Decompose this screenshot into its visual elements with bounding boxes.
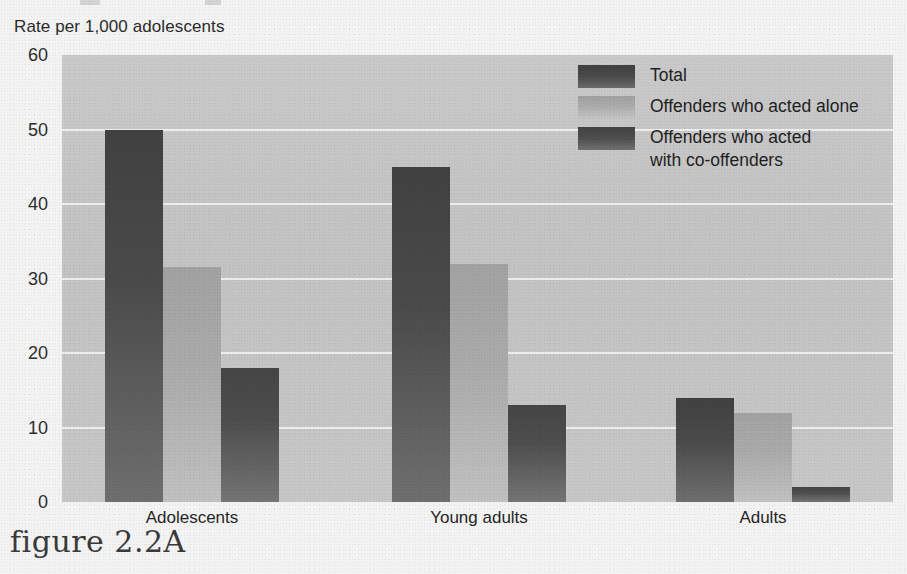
bar-co-1 xyxy=(508,405,566,502)
legend-item-alone: Offenders who acted alone xyxy=(578,95,898,119)
cropped-title-artifact xyxy=(80,0,100,5)
figure-container: Rate per 1,000 adolescents 0102030405060… xyxy=(0,0,907,574)
legend-swatch-total xyxy=(578,65,635,88)
bar-total-2 xyxy=(676,398,734,502)
x-axis-label-2: Adults xyxy=(739,508,786,528)
legend-label-alone: Offenders who acted alone xyxy=(650,95,898,118)
y-axis-tick-20: 20 xyxy=(28,343,48,364)
y-axis-tick-40: 40 xyxy=(28,194,48,215)
cropped-title-artifact xyxy=(205,0,221,5)
y-axis-tick-0: 0 xyxy=(38,492,48,513)
bar-total-1 xyxy=(392,167,450,502)
y-axis-tick-60: 60 xyxy=(28,45,48,66)
x-axis-label-1: Young adults xyxy=(430,508,528,528)
legend-item-total: Total xyxy=(578,64,898,88)
y-axis-tick-labels: 0102030405060 xyxy=(0,55,55,502)
y-axis-tick-30: 30 xyxy=(28,268,48,289)
bar-alone-1 xyxy=(450,264,508,502)
y-axis-tick-10: 10 xyxy=(28,417,48,438)
y-axis-title: Rate per 1,000 adolescents xyxy=(14,17,225,37)
y-axis-tick-50: 50 xyxy=(28,119,48,140)
bar-co-0 xyxy=(221,368,279,502)
bar-total-0 xyxy=(105,130,163,503)
gridline-40 xyxy=(62,203,893,205)
chart-legend: TotalOffenders who acted aloneOffenders … xyxy=(578,64,898,179)
bar-co-2 xyxy=(792,487,850,502)
bar-alone-2 xyxy=(734,413,792,502)
legend-swatch-alone xyxy=(578,96,635,119)
legend-label-co: Offenders who acted with co-offenders xyxy=(650,126,898,172)
legend-swatch-co xyxy=(578,127,635,150)
legend-label-total: Total xyxy=(650,64,898,87)
bar-alone-0 xyxy=(163,267,221,502)
legend-item-co: Offenders who acted with co-offenders xyxy=(578,126,898,172)
figure-caption: figure 2.2A xyxy=(10,524,186,559)
